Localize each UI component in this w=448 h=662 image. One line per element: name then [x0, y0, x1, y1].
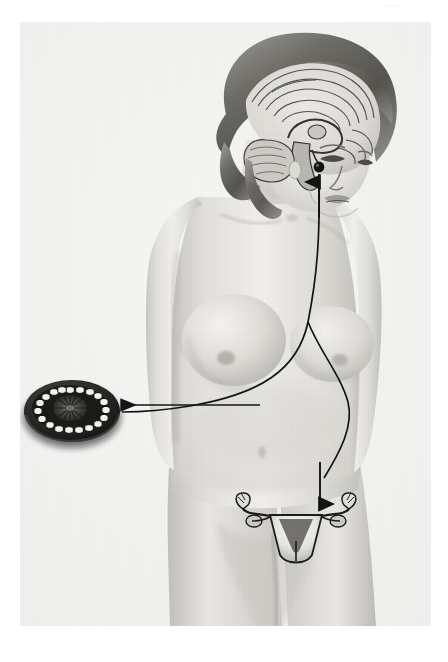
plate-caption	[22, 636, 322, 650]
right-breast	[290, 306, 374, 382]
anatomical-figure	[20, 22, 431, 626]
pituitary-gland	[314, 162, 325, 173]
left-breast	[182, 294, 286, 386]
page-root: · ·· ——	[0, 0, 448, 662]
thalamus	[308, 125, 326, 139]
running-header-center: ··	[325, 1, 331, 9]
running-header: · ·· ——	[0, 0, 448, 10]
running-header-left: ·	[131, 1, 134, 9]
ear	[289, 161, 301, 179]
head-group	[216, 33, 397, 219]
illustration-plate	[20, 22, 431, 626]
running-header-right: ——	[385, 1, 400, 9]
corpus-luteum	[53, 395, 87, 421]
ovary-inset	[23, 380, 121, 448]
